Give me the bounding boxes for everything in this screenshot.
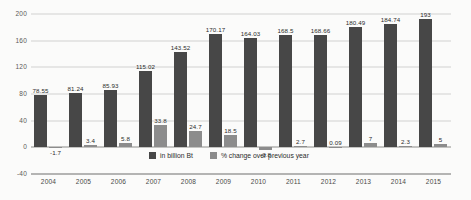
bar-secondary <box>399 146 412 148</box>
y-axis-tick-label: 160 <box>16 37 27 44</box>
bar-primary <box>244 38 257 147</box>
bar-secondary <box>294 146 307 148</box>
bar-secondary <box>84 145 97 147</box>
y-axis-tick-label: 40 <box>19 117 27 124</box>
bar-value-label: 2.7 <box>296 138 305 145</box>
bar-value-label: 180.49 <box>346 19 366 26</box>
bar-secondary <box>329 147 342 148</box>
x-axis: 2004200520062007200820092010201120122013… <box>31 178 451 194</box>
bar-group: 143.5224.7 <box>171 14 206 174</box>
bar-value-label: 143.52 <box>171 44 191 51</box>
legend-label-primary: in billion Bt <box>160 152 193 159</box>
bar-value-label: 5 <box>439 136 443 143</box>
bar-group: 168.52.7 <box>276 14 311 174</box>
bar-primary <box>104 90 117 147</box>
bar-value-label: 193 <box>420 11 431 18</box>
bar-primary <box>419 19 432 148</box>
bar-value-label: 164.03 <box>241 30 261 37</box>
bar-value-label: 7 <box>369 135 373 142</box>
bar-value-label: 5.8 <box>121 135 130 142</box>
legend-swatch-secondary <box>210 152 217 159</box>
bar-value-label: 0.09 <box>329 139 341 146</box>
bar-primary <box>279 35 292 147</box>
bar-value-label: 115.02 <box>136 63 155 70</box>
bar-primary <box>209 34 222 147</box>
y-axis-tick-label: -40 <box>17 170 27 177</box>
bar-group: 1935 <box>416 14 451 174</box>
bar-group: 164.03-3.8 <box>241 14 276 174</box>
bar-secondary <box>364 143 377 148</box>
bar-value-label: 85.93 <box>103 82 119 89</box>
bar-secondary <box>189 131 202 147</box>
y-axis-tick-label: 120 <box>16 63 27 70</box>
x-axis-tick-label: 2004 <box>41 178 56 185</box>
bar-primary <box>349 27 362 147</box>
bar-primary <box>34 95 47 147</box>
bar-series-container: 78.55-1.781.243.485.935.8115.0233.8143.5… <box>31 14 451 174</box>
x-axis-tick-label: 2009 <box>216 178 231 185</box>
bar-secondary <box>259 147 272 150</box>
bar-primary <box>69 93 82 147</box>
x-axis-tick-label: 2008 <box>181 178 196 185</box>
y-axis-tick-label: 0 <box>23 143 27 150</box>
bar-value-label: 24.7 <box>189 123 201 130</box>
bar-secondary <box>224 135 237 147</box>
x-axis-tick-label: 2012 <box>321 178 336 185</box>
bar-value-label: 168.5 <box>278 27 294 34</box>
chart-legend: in billion Bt % change over previous yea… <box>149 152 309 159</box>
x-axis-tick-label: 2005 <box>76 178 91 185</box>
bar-primary <box>174 52 187 148</box>
bar-value-label: 18.5 <box>224 127 236 134</box>
x-axis-tick-label: 2007 <box>146 178 161 185</box>
bar-primary <box>314 35 327 147</box>
bar-value-label: 184.74 <box>381 16 401 23</box>
x-axis-tick-label: 2015 <box>426 178 441 185</box>
bar-value-label: 78.55 <box>33 87 49 94</box>
bar-group: 170.1718.5 <box>206 14 241 174</box>
bar-primary <box>384 24 397 147</box>
bar-group: 81.243.4 <box>66 14 101 174</box>
bar-primary <box>139 71 152 148</box>
x-axis-tick-label: 2013 <box>356 178 371 185</box>
bar-value-label: 3.4 <box>86 137 95 144</box>
y-axis-tick-label: 80 <box>19 90 27 97</box>
plot-area: 20016012080400-40 78.55-1.781.243.485.93… <box>31 14 451 174</box>
x-axis-tick-label: 2010 <box>251 178 266 185</box>
bar-group: 78.55-1.7 <box>31 14 66 174</box>
bar-group: 85.935.8 <box>101 14 136 174</box>
legend-label-secondary: % change over previous year <box>221 152 309 159</box>
bar-value-label: 2.3 <box>401 138 410 145</box>
bar-secondary <box>434 144 447 147</box>
legend-item-primary: in billion Bt <box>149 152 193 159</box>
bar-value-label: 81.24 <box>68 85 84 92</box>
bar-value-label: 168.66 <box>311 27 331 34</box>
bar-group: 184.742.3 <box>381 14 416 174</box>
bar-secondary <box>119 143 132 147</box>
bar-secondary <box>49 147 62 148</box>
bar-group: 168.660.09 <box>311 14 346 174</box>
x-axis-tick-label: 2011 <box>286 178 301 185</box>
bar-chart: 20016012080400-40 78.55-1.781.243.485.93… <box>0 0 471 200</box>
x-axis-tick-label: 2014 <box>391 178 406 185</box>
bar-group: 180.497 <box>346 14 381 174</box>
legend-swatch-primary <box>149 152 156 159</box>
bar-value-label: 170.17 <box>206 26 226 33</box>
x-axis-tick-label: 2006 <box>111 178 126 185</box>
bar-value-label: -1.7 <box>50 149 61 156</box>
bar-group: 115.0233.8 <box>136 14 171 174</box>
y-axis-tick-label: 200 <box>16 10 27 17</box>
legend-item-secondary: % change over previous year <box>210 152 309 159</box>
bar-secondary <box>154 125 167 148</box>
bar-value-label: 33.8 <box>154 117 166 124</box>
